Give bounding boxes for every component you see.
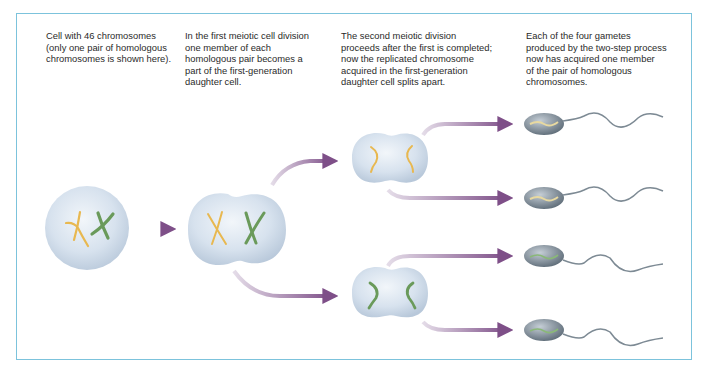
- gamete-1: [524, 113, 663, 135]
- meiosis-illustration: [0, 0, 714, 372]
- gamete-2: [524, 187, 663, 209]
- parent-cell: [45, 186, 129, 270]
- arrow-2-bottom: [234, 271, 332, 296]
- arrow-2-top: [272, 161, 332, 185]
- arrow-3-1: [423, 124, 507, 135]
- arrow-3-2: [388, 190, 507, 198]
- second-division-cell-bottom: [352, 267, 428, 317]
- second-division-cell-top: [352, 133, 428, 183]
- arrow-3-3: [388, 256, 507, 266]
- gamete-3: [524, 245, 663, 272]
- arrow-3-4: [423, 322, 507, 330]
- gamete-4: [524, 319, 663, 346]
- first-generation-cell: [188, 193, 286, 265]
